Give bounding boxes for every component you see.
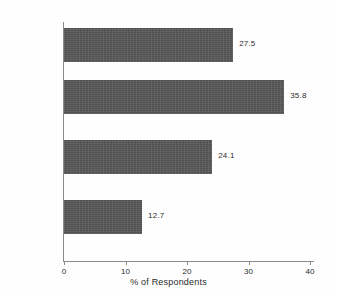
plot-area: Completely 27.5 Substantially 35.8 Parti…: [64, 22, 310, 261]
x-axis-title: % of Respondents: [0, 277, 337, 287]
x-tick: [126, 261, 127, 265]
value-label-completely: 27.5: [239, 39, 255, 48]
x-tick: [310, 261, 311, 265]
x-tick: [249, 261, 250, 265]
bar-substantially: [64, 80, 284, 114]
value-label-partially: 24.1: [218, 151, 234, 160]
x-axis-line: [64, 261, 314, 262]
bar-would-not: [64, 200, 142, 234]
value-label-substantially: 35.8: [290, 91, 306, 100]
bar-completely: [64, 28, 233, 62]
x-tick-label: 0: [62, 267, 66, 276]
x-tick: [64, 261, 65, 265]
value-label-would-not: 12.7: [148, 211, 164, 220]
x-tick-label: 10: [121, 267, 130, 276]
x-tick: [187, 261, 188, 265]
x-tick-label: 20: [183, 267, 192, 276]
bar-chart-figure: Completely 27.5 Substantially 35.8 Parti…: [0, 0, 337, 296]
x-tick-label: 40: [306, 267, 315, 276]
bar-partially: [64, 140, 212, 174]
x-tick-label: 30: [244, 267, 253, 276]
